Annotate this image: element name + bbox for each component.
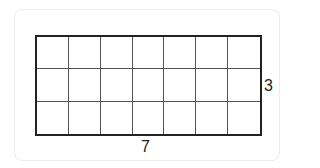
grid-cell [133, 69, 165, 101]
grid-cell [101, 69, 133, 101]
grid-cell [69, 37, 101, 69]
grid-cell [69, 102, 101, 134]
grid-cell [228, 37, 260, 69]
grid-cell [101, 37, 133, 69]
grid-cell [101, 102, 133, 134]
grid-cell [164, 37, 196, 69]
grid-cell [164, 69, 196, 101]
grid-cell [37, 37, 69, 69]
grid-cell [133, 102, 165, 134]
grid-cell [196, 37, 228, 69]
height-label: 3 [264, 77, 273, 95]
grid-cell [196, 69, 228, 101]
rectangle-grid [35, 35, 262, 136]
grid-cell [133, 37, 165, 69]
grid-cell [228, 69, 260, 101]
grid-cell [228, 102, 260, 134]
grid-cell [69, 69, 101, 101]
width-label: 7 [141, 138, 150, 156]
grid-cell [37, 102, 69, 134]
grid-cell [164, 102, 196, 134]
grid-cell [196, 102, 228, 134]
grid-cell [37, 69, 69, 101]
